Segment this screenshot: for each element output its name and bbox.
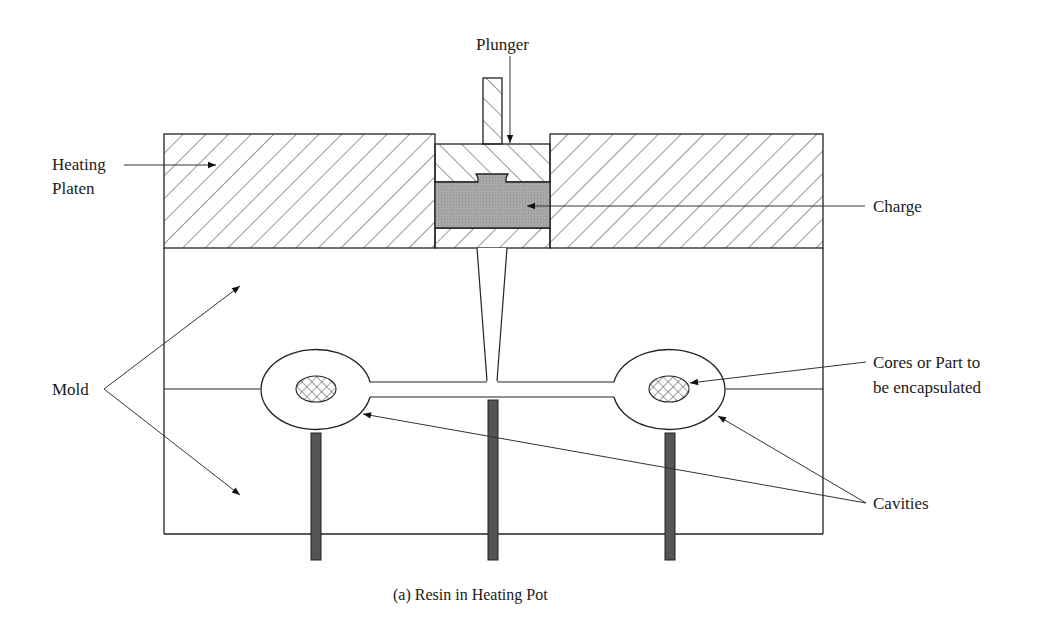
plunger-rod (483, 78, 502, 144)
cores-label-line1: Cores or Part to (873, 353, 980, 372)
plunger-label: Plunger (476, 35, 529, 54)
heating-platen-label-line1: Heating (52, 155, 106, 174)
heating-platen-left (164, 134, 435, 248)
mold-label: Mold (52, 380, 89, 399)
cavity-left (261, 350, 370, 430)
transfer-molding-diagram: Plunger Heating Platen Charge Mold Cores… (0, 0, 1057, 638)
heating-platen-label-line2: Platen (52, 179, 95, 198)
mold-arrow-lower (104, 389, 240, 495)
runner (370, 382, 614, 397)
cavity-right (614, 350, 725, 430)
pot-bottom (435, 228, 550, 248)
core-left (296, 376, 336, 402)
sprue (477, 248, 507, 381)
mold-arrow-upper (104, 286, 240, 389)
charge (435, 174, 550, 228)
core-right (649, 376, 689, 402)
charge-label: Charge (873, 197, 922, 216)
cavities-label: Cavities (873, 494, 929, 513)
heating-platen-right (550, 134, 823, 248)
ejector-pins (311, 400, 675, 560)
figure-caption: (a) Resin in Heating Pot (393, 586, 548, 604)
cores-label-line2: be encapsulated (873, 378, 982, 397)
